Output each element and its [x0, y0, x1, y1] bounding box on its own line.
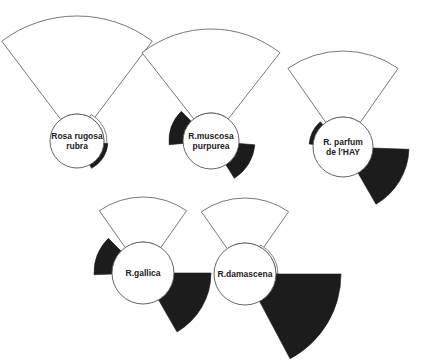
- variety-label: R. parfum: [323, 137, 363, 147]
- diagram-canvas: Rosa rugosarubraR.muscosapurpureaR. parf…: [0, 0, 424, 360]
- variety-label: Rosa rugosa: [51, 131, 103, 141]
- diagram-r-parfum-de-lhay: R. parfumde l'HAY: [288, 51, 409, 204]
- variety-label: rubra: [66, 141, 88, 151]
- variety-label: R.gallica: [126, 268, 161, 278]
- diagram-r-damascena: R.damascena: [201, 198, 341, 359]
- white-sector: [2, 16, 152, 119]
- variety-label: purpurea: [193, 141, 230, 151]
- variety-label: de l'HAY: [326, 147, 360, 157]
- diagram-rosa-rugosa-rubra: Rosa rugosarubra: [2, 16, 152, 168]
- diagram-r-gallica: R.gallica: [94, 197, 211, 332]
- variety-label: R.damascena: [218, 269, 273, 279]
- white-sector: [142, 29, 280, 119]
- white-sector: [99, 197, 186, 248]
- diagram-r-muscosa-purpurea: R.muscosapurpurea: [142, 29, 280, 178]
- white-sector: [201, 198, 288, 249]
- variety-label: R.muscosa: [188, 131, 234, 141]
- white-sector: [288, 51, 398, 122]
